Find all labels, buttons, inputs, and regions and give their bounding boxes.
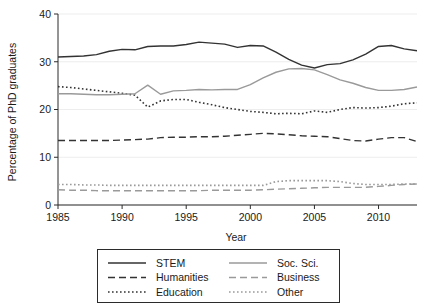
x-tick-labels: 198519901995200020052010 (46, 211, 390, 223)
series-line-humanities (58, 133, 417, 141)
x-tick-label: 2010 (367, 211, 391, 223)
chart-plot-area: 010203040 198519901995200020052010 Perce… (0, 0, 427, 244)
legend-svg: STEMSoc. Sci.HumanitiesBusinessEducation… (0, 244, 427, 308)
x-axis (58, 205, 417, 209)
series-line-stem (58, 42, 417, 68)
y-axis (54, 14, 58, 205)
x-tick-label: 2005 (303, 211, 327, 223)
legend-label-other: Other (277, 286, 304, 298)
y-tick-label: 40 (39, 8, 51, 20)
series-line-other (58, 181, 417, 186)
series-line-business (58, 184, 417, 191)
x-axis-title: Year (225, 231, 247, 243)
line-chart-svg: 010203040 198519901995200020052010 Perce… (0, 0, 427, 244)
x-tick-label: 1995 (175, 211, 199, 223)
legend-label-soc-sci: Soc. Sci. (277, 257, 318, 269)
figure-caption (0, 300, 427, 308)
legend-label-education: Education (156, 286, 203, 298)
x-tick-label: 2000 (239, 211, 263, 223)
legend-label-humanities: Humanities (156, 271, 209, 283)
y-tick-label: 0 (45, 199, 51, 211)
figure-container: 010203040 198519901995200020052010 Perce… (0, 0, 427, 308)
y-tick-label: 30 (39, 56, 51, 68)
x-tick-label: 1985 (46, 211, 70, 223)
y-tick-label: 20 (39, 103, 51, 115)
y-tick-labels: 010203040 (39, 8, 51, 211)
y-tick-label: 10 (39, 151, 51, 163)
gridlines (58, 14, 417, 205)
series-line-soc-sci (58, 68, 417, 94)
data-series-group (58, 42, 417, 191)
legend-label-business: Business (277, 271, 320, 283)
x-tick-label: 1990 (110, 211, 134, 223)
legend-label-stem: STEM (156, 257, 185, 269)
y-axis-title: Percentage of PhD graduates (6, 43, 18, 181)
